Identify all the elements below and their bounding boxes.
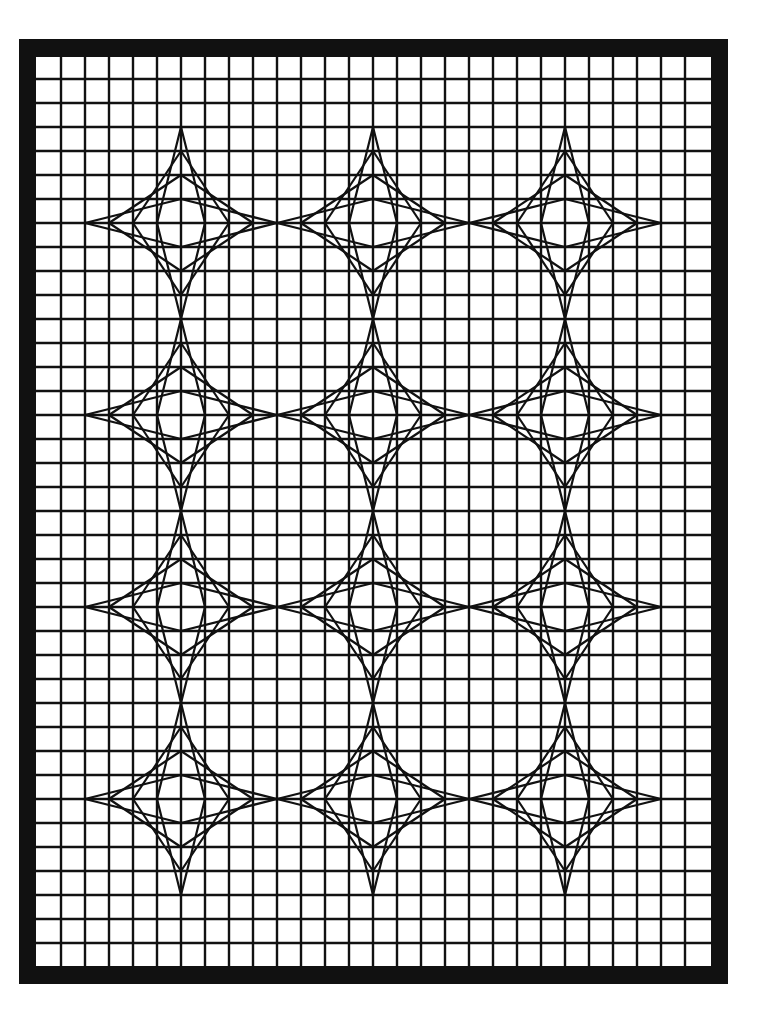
artwork-canvas xyxy=(0,0,758,1025)
